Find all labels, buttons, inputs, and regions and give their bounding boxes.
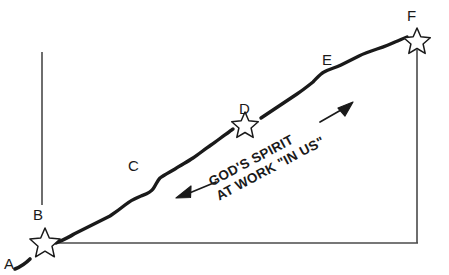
progression-curve-upper [261, 37, 407, 118]
star-marker-f [404, 28, 431, 53]
arrow-up-right-icon [320, 102, 353, 122]
label-c: C [128, 158, 139, 173]
star-marker-b [30, 228, 60, 257]
diagram-svg [0, 0, 449, 275]
label-b: B [33, 207, 43, 222]
a-pointer-tick-icon [15, 259, 30, 269]
label-d: D [239, 101, 250, 116]
label-e: E [322, 52, 332, 67]
label-f: F [407, 8, 416, 23]
diagram-canvas: A B C D E F GOD'S SPIRIT AT WORK "IN US" [0, 0, 449, 275]
label-a: A [4, 256, 14, 271]
